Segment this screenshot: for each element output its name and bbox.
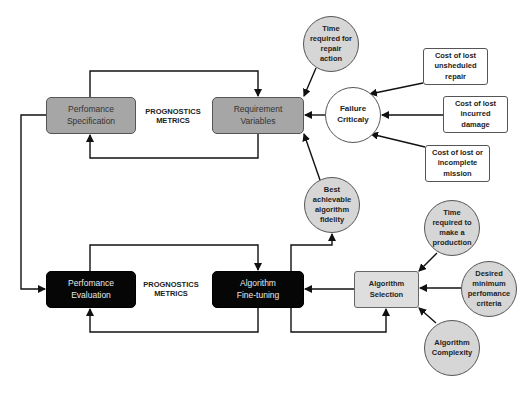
arrow-spec-to-requirement [90,71,258,97]
arrow-mission-to-failure [371,134,425,147]
performance-specification-box: Perfomance Specification [46,97,136,134]
algorithm-complexity-circle: Algorithm Complexity [424,320,480,376]
arrow-production-to-selection [419,253,437,271]
arrow-finetuning-to-fidelity [291,234,332,271]
arrow-finetuning-to-evaluation [90,307,258,332]
cost-incurred-damage-box: Cost of lost incurred damage [443,96,508,133]
arrow-evaluation-to-finetuning [90,245,258,271]
prognostics-metrics-label-top: PROGNOSTICS METRICS [140,102,206,130]
cost-incomplete-mission-box: Cost of lost or incomplete mission [425,145,490,182]
arrow-finetuning-to-selection [291,307,386,332]
arrow-complexity-to-selection [419,308,436,323]
time-production-circle: Time required to make a production [424,200,480,256]
requirement-variables-box: Requirement Variables [212,97,304,134]
arrow-fidelity-to-requirement [304,134,320,180]
desired-minimum-circle: Desired minimum perfomance criteria [461,261,517,317]
performance-evaluation-box: Perfomance Evaluation [46,271,136,308]
best-fidelity-circle: Best achievable algorithm fidelity [304,177,360,233]
cost-unscheduled-repair-box: Cost of lost unsheduled repair [423,48,488,85]
failure-criticality-circle: Failure Criticaly [325,87,381,143]
arrow-requirement-to-spec [90,133,258,158]
time-repair-circle: Time required for repair action [303,16,359,72]
algorithm-selection-box: Algorithm Selection [354,271,419,308]
arrow-repair-to-requirement [304,68,316,96]
prognostics-metrics-label-bottom: PROGNOSTICS METRICS [138,275,204,303]
algorithm-fine-tuning-box: Algorithm Fine-tuning [212,271,304,308]
arrow-unscheduled-to-failure [370,83,423,94]
arrow-spec-to-evaluation [21,115,46,289]
